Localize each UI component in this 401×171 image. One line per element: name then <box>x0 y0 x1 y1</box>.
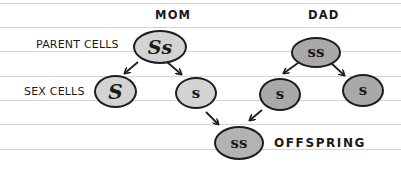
dad-sex-cell-2-genotype: s <box>359 83 367 98</box>
mom-sex-cell-1-genotype: S <box>108 82 122 102</box>
dad-sex-cell-2: s <box>342 74 384 107</box>
mom-sex-cell-2-genotype: s <box>192 86 200 101</box>
mom-sex-cell-2: s <box>175 77 217 109</box>
mom-parent-cell: Ss <box>133 30 187 64</box>
sex-cells-label: SEX CELLS <box>24 85 85 98</box>
arrow-mom-sex2-to-offspring <box>206 112 218 124</box>
mom-parent-genotype: Ss <box>148 38 172 57</box>
mom-label: MOM <box>155 8 191 22</box>
arrow-dad-to-sex1 <box>284 63 298 73</box>
parent-cells-label: PARENT CELLS <box>36 38 119 51</box>
dad-label: DAD <box>308 8 340 22</box>
arrow-mom-to-sex1 <box>125 62 138 73</box>
offspring-cell: ss <box>214 126 264 160</box>
dad-parent-genotype: ss <box>308 45 325 60</box>
mom-sex-cell-1: S <box>94 75 137 108</box>
dad-sex-cell-1: s <box>259 78 301 111</box>
dad-parent-cell: ss <box>291 37 341 68</box>
arrow-dad-to-sex2 <box>331 63 344 75</box>
dad-sex-cell-1-genotype: s <box>276 87 284 102</box>
offspring-genotype: ss <box>231 136 248 151</box>
arrow-dad-sex1-to-offspring <box>250 110 262 120</box>
arrow-mom-to-sex2 <box>167 62 181 74</box>
offspring-label: OFFSPRING <box>274 136 366 150</box>
